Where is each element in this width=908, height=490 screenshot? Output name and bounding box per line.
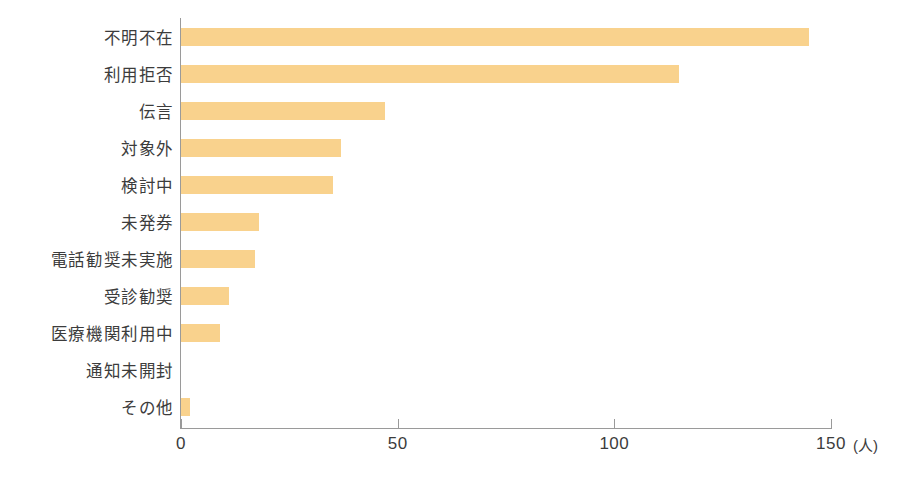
bar[interactable] (181, 287, 229, 305)
bar-row (181, 278, 831, 315)
x-axis-line (180, 428, 832, 429)
category-label: 受診勧奨 (104, 284, 174, 308)
category-label-row: 未発券 (0, 203, 174, 240)
category-label: その他 (121, 395, 174, 419)
category-label-row: 電話勧奨未実施 (0, 241, 174, 278)
category-label: 利用拒否 (104, 62, 174, 86)
bar-chart: 不明不在利用拒否伝言対象外検討中未発券電話勧奨未実施受診勧奨医療機関利用中通知未… (0, 0, 908, 490)
bar-row (181, 315, 831, 352)
bar[interactable] (181, 176, 333, 194)
category-label: 検討中 (121, 173, 174, 197)
category-label: 伝言 (139, 99, 174, 123)
x-axis-tick-label: 0 (176, 434, 186, 454)
category-label-row: 通知未開封 (0, 352, 174, 389)
category-label: 未発券 (121, 210, 174, 234)
x-axis-unit-label: (人) (853, 434, 878, 455)
category-label-row: 受診勧奨 (0, 278, 174, 315)
category-label-row: 利用拒否 (0, 55, 174, 92)
bar-row (181, 389, 831, 426)
x-axis-tick (831, 419, 832, 428)
category-label-row: 対象外 (0, 129, 174, 166)
bar-row (181, 129, 831, 166)
x-axis-tick-label: 100 (599, 434, 629, 454)
category-label: 対象外 (121, 136, 174, 160)
category-label-row: 医療機関利用中 (0, 315, 174, 352)
x-axis-tick (614, 419, 615, 428)
bar-row (181, 55, 831, 92)
bar-row (181, 203, 831, 240)
category-axis-labels: 不明不在利用拒否伝言対象外検討中未発券電話勧奨未実施受診勧奨医療機関利用中通知未… (0, 18, 174, 426)
bar[interactable] (181, 28, 809, 46)
x-axis-tick (398, 419, 399, 428)
bar[interactable] (181, 102, 385, 120)
bar[interactable] (181, 65, 679, 83)
category-label: 通知未開封 (86, 358, 174, 382)
bar[interactable] (181, 139, 341, 157)
category-label-row: 伝言 (0, 92, 174, 129)
bar-row (181, 18, 831, 55)
bar-row (181, 241, 831, 278)
bar[interactable] (181, 324, 220, 342)
category-label-row: 不明不在 (0, 18, 174, 55)
category-label: 医療機関利用中 (51, 321, 174, 345)
category-label: 電話勧奨未実施 (51, 247, 174, 271)
x-axis-tick-label: 50 (388, 434, 408, 454)
category-label-row: その他 (0, 389, 174, 426)
bar[interactable] (181, 213, 259, 231)
bar-row (181, 166, 831, 203)
category-label-row: 検討中 (0, 166, 174, 203)
bar[interactable] (181, 398, 190, 416)
plot-area (181, 18, 831, 426)
bar-row (181, 352, 831, 389)
bar[interactable] (181, 250, 255, 268)
x-axis-tick-label: 150 (816, 434, 846, 454)
x-axis-tick (181, 419, 182, 428)
bar-row (181, 92, 831, 129)
category-label: 不明不在 (104, 25, 174, 49)
